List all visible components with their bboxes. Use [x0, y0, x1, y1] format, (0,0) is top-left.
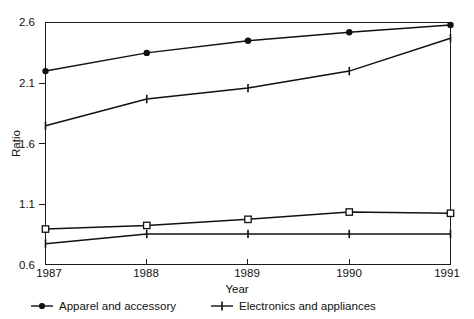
series-line [46, 25, 451, 71]
data-point-marker [144, 50, 150, 56]
line-chart: 2.6 2.1 1.6 1.1 0.6 Ratio 1987 1988 1989… [0, 0, 474, 319]
data-point-marker [144, 222, 150, 228]
legend-item-apparel[interactable]: Apparel and accessory [30, 300, 176, 313]
series-line [46, 38, 451, 125]
data-point-marker [447, 210, 453, 216]
data-point-marker [447, 22, 453, 28]
filled-circle-icon [30, 300, 54, 312]
series-0 [42, 22, 453, 75]
series-2 [42, 209, 453, 232]
series-1 [46, 34, 451, 130]
data-series-layer [0, 0, 474, 319]
data-point-marker [42, 68, 48, 74]
data-point-marker [346, 29, 352, 35]
legend-item-electronics[interactable]: Electronics and appliances [210, 300, 376, 313]
legend-label-apparel: Apparel and accessory [59, 300, 176, 313]
data-point-marker [245, 38, 251, 44]
data-point-marker [245, 216, 251, 222]
legend-label-electronics: Electronics and appliances [239, 300, 376, 313]
plus-marker-icon [210, 300, 234, 312]
legend: Apparel and accessory Electronics and ap… [30, 298, 410, 314]
data-point-marker [42, 226, 48, 232]
series-3 [46, 230, 451, 248]
data-point-marker [346, 209, 352, 215]
